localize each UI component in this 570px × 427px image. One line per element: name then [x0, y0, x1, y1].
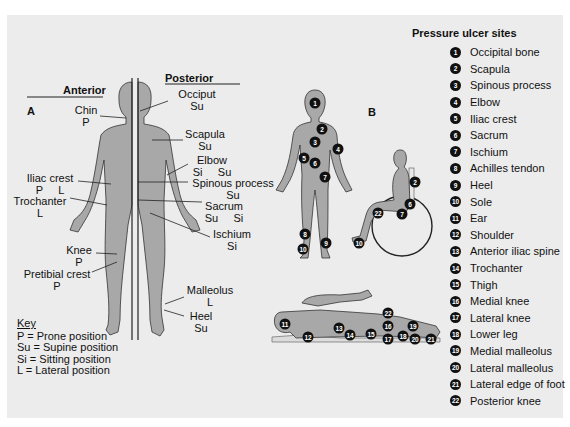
number-badge-icon: 2 [450, 63, 461, 74]
number-badge-icon: 3 [450, 80, 461, 91]
anterior-heading: Anterior [63, 84, 106, 96]
legend-item: 19Medial malleolus [450, 343, 565, 360]
legend-item: 4Elbow [450, 94, 565, 111]
marker-13: 13 [334, 323, 345, 334]
marker-7: 7 [320, 172, 331, 183]
legend-item: 17Lateral knee [450, 310, 565, 327]
marker-3: 3 [310, 137, 321, 148]
number-badge-icon: 11 [450, 213, 461, 224]
number-badge-icon: 18 [450, 329, 461, 340]
marker-12: 12 [303, 332, 314, 343]
position-key: Key P = Prone position Su = Supine posit… [17, 318, 118, 377]
panel-b-letter: B [368, 106, 376, 118]
marker-18: 18 [398, 331, 409, 342]
site-label-knee: KneeP [64, 244, 94, 268]
site-label-iliac-crest: Iliac crestP L [20, 172, 80, 196]
legend-item: 21Lateral edge of foot [450, 376, 565, 393]
number-badge-icon: 21 [450, 379, 461, 390]
marker-22: 22 [383, 308, 394, 319]
marker-17: 17 [383, 334, 394, 345]
marker-1: 1 [310, 98, 321, 109]
number-badge-icon: 14 [450, 263, 461, 274]
marker-21: 21 [426, 334, 437, 345]
marker-4: 4 [333, 144, 344, 155]
marker-8: 8 [300, 229, 311, 240]
legend-item: 1Occipital bone [450, 44, 565, 61]
marker-5: 5 [299, 153, 310, 164]
site-label-scapula: ScapulaSu [183, 128, 227, 152]
key-title: Key [17, 318, 118, 330]
site-label-occiput: OcciputSu [172, 88, 222, 112]
marker-6-sitting: 6 [405, 199, 416, 210]
marker-20: 20 [410, 334, 421, 345]
marker-7-sitting: 7 [397, 209, 408, 220]
marker-19: 19 [408, 321, 419, 332]
legend-item: 16Medial knee [450, 293, 565, 310]
number-badge-icon: 20 [450, 362, 461, 373]
legend-title: Pressure ulcer sites [412, 27, 517, 39]
standing-figure [276, 90, 352, 258]
legend-item: 9Heel [450, 177, 565, 194]
number-badge-icon: 9 [450, 180, 461, 191]
site-label-malleolus: MalleolusL [186, 284, 234, 308]
site-label-sacrum: SacrumSu Si [200, 200, 248, 224]
number-badge-icon: 19 [450, 345, 461, 356]
number-badge-icon: 17 [450, 312, 461, 323]
marker-9: 9 [321, 238, 332, 249]
marker-11: 11 [280, 319, 291, 330]
pressure-site-legend: 1Occipital bone 2Scapula 3Spinous proces… [450, 44, 565, 409]
marker-10-sitting: 10 [354, 238, 365, 249]
number-badge-icon: 1 [450, 47, 461, 58]
legend-item: 3Spinous process [450, 77, 565, 94]
marker-2: 2 [317, 124, 328, 135]
site-label-trochanter: TrochanterL [10, 195, 70, 219]
legend-item: 14Trochanter [450, 260, 565, 277]
marker-10: 10 [298, 244, 309, 255]
number-badge-icon: 12 [450, 229, 461, 240]
number-badge-icon: 10 [450, 196, 461, 207]
legend-item: 7Ischium [450, 144, 565, 161]
number-badge-icon: 22 [450, 395, 461, 406]
number-badge-icon: 16 [450, 296, 461, 307]
site-label-pretibial-crest: Pretibial crestP [22, 268, 92, 292]
legend-item: 12Shoulder [450, 227, 565, 244]
legend-item: 5Iliac crest [450, 110, 565, 127]
site-label-chin: ChinP [72, 104, 100, 128]
marker-2-sitting: 2 [410, 177, 421, 188]
number-badge-icon: 15 [450, 279, 461, 290]
site-label-heel: HeelSu [186, 310, 216, 334]
posterior-heading: Posterior [165, 72, 213, 84]
number-badge-icon: 7 [450, 146, 461, 157]
marker-16: 16 [383, 321, 394, 332]
legend-item: 11Ear [450, 210, 565, 227]
marker-22-sitting: 22 [373, 208, 384, 219]
legend-item: 13Anterior iliac spine [450, 243, 565, 260]
legend-item: 8Achilles tendon [450, 160, 565, 177]
number-badge-icon: 5 [450, 113, 461, 124]
legend-item: 22Posterior knee [450, 392, 565, 409]
marker-15: 15 [366, 329, 377, 340]
panel-a-letter: A [27, 105, 35, 117]
legend-item: 20Lateral malleolus [450, 359, 565, 376]
number-badge-icon: 4 [450, 97, 461, 108]
key-item: Su = Supine position [17, 342, 118, 354]
legend-item: 10Sole [450, 193, 565, 210]
site-label-elbow: ElbowSi Su [190, 154, 234, 178]
legend-item: 18Lower leg [450, 326, 565, 343]
marker-14: 14 [345, 330, 356, 341]
number-badge-icon: 13 [450, 246, 461, 257]
number-badge-icon: 8 [450, 163, 461, 174]
legend-item: 6Sacrum [450, 127, 565, 144]
legend-item: 15Thigh [450, 276, 565, 293]
marker-6: 6 [310, 158, 321, 169]
key-item: L = Lateral position [17, 365, 118, 377]
site-label-ischium: IschiumSi [210, 228, 254, 252]
legend-item: 2Scapula [450, 61, 565, 78]
site-label-spinous-process: Spinous processSu [188, 177, 278, 201]
number-badge-icon: 6 [450, 130, 461, 141]
